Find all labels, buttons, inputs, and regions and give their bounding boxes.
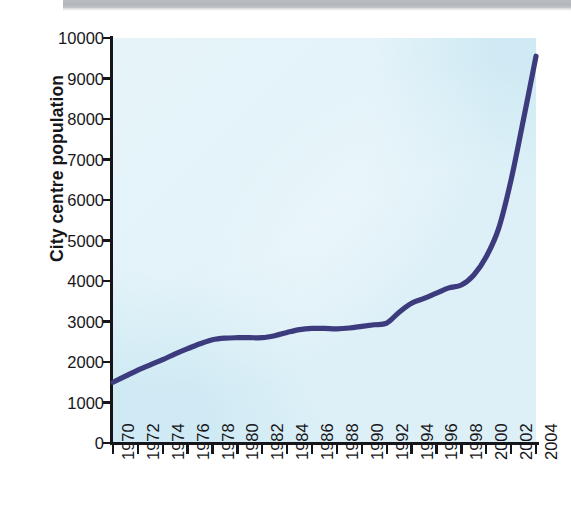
x-tick-mark <box>361 445 363 454</box>
x-tick-mark <box>535 445 537 454</box>
y-tick-label: 10000 <box>42 30 104 47</box>
x-tick-label: 2000 <box>493 390 510 460</box>
x-tick-label: 1974 <box>170 390 187 460</box>
x-tick-label: 1972 <box>145 390 162 460</box>
y-tick-mark <box>103 361 112 363</box>
x-tick-mark <box>261 445 263 454</box>
y-tick-mark <box>103 280 112 282</box>
x-tick-mark <box>236 445 238 454</box>
y-tick-mark <box>103 77 112 79</box>
x-tick-label: 1986 <box>319 390 336 460</box>
y-tick-mark <box>103 37 112 39</box>
x-tick-mark <box>186 445 188 454</box>
x-tick-mark <box>485 445 487 454</box>
x-tick-label: 1998 <box>468 390 485 460</box>
x-tick-mark <box>510 445 512 454</box>
x-tick-mark <box>410 445 412 454</box>
x-tick-mark <box>435 445 437 454</box>
y-tick-label: 1000 <box>42 395 104 412</box>
x-tick-mark <box>336 445 338 454</box>
y-tick-label: 7000 <box>42 152 104 169</box>
plot-area <box>113 38 536 443</box>
y-tick-mark <box>103 239 112 241</box>
x-tick-label: 1996 <box>443 390 460 460</box>
x-tick-label: 2004 <box>543 390 560 460</box>
x-tick-label: 1992 <box>394 390 411 460</box>
x-tick-label: 1994 <box>419 390 436 460</box>
y-tick-label: 5000 <box>42 233 104 250</box>
x-tick-mark <box>286 445 288 454</box>
y-tick-mark <box>103 320 112 322</box>
y-tick-label: 4000 <box>42 273 104 290</box>
y-tick-mark <box>103 158 112 160</box>
x-tick-mark <box>112 445 114 454</box>
y-tick-label: 8000 <box>42 111 104 128</box>
scan-edge-artifact-fade <box>63 8 571 11</box>
x-tick-label: 1976 <box>195 390 212 460</box>
y-tick-label: 0 <box>42 435 104 452</box>
chart-figure: City centre population 01000200030004000… <box>0 0 571 530</box>
y-tick-label: 9000 <box>42 71 104 88</box>
y-tick-label: 6000 <box>42 192 104 209</box>
x-tick-label: 1982 <box>269 390 286 460</box>
y-tick-label: 3000 <box>42 314 104 331</box>
x-tick-mark <box>137 445 139 454</box>
x-tick-label: 1970 <box>120 390 137 460</box>
x-tick-label: 2002 <box>518 390 535 460</box>
y-tick-mark <box>103 401 112 403</box>
y-tick-mark <box>103 442 112 444</box>
plot-background-texture <box>113 38 536 443</box>
x-tick-label: 1980 <box>244 390 261 460</box>
y-tick-mark <box>103 199 112 201</box>
x-tick-label: 1978 <box>220 390 237 460</box>
x-tick-mark <box>311 445 313 454</box>
y-tick-label-group: 0100020003000400050006000700080009000100… <box>42 0 104 530</box>
y-tick-mark <box>103 118 112 120</box>
x-tick-mark <box>460 445 462 454</box>
x-tick-mark <box>211 445 213 454</box>
y-tick-label: 2000 <box>42 354 104 371</box>
x-tick-mark <box>386 445 388 454</box>
x-tick-label: 1988 <box>344 390 361 460</box>
x-tick-label: 1990 <box>369 390 386 460</box>
x-tick-label: 1984 <box>294 390 311 460</box>
x-tick-mark <box>162 445 164 454</box>
